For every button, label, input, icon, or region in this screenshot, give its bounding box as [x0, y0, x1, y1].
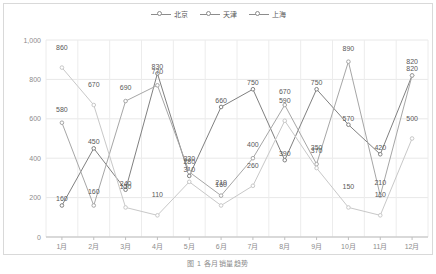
data-point[interactable]	[124, 99, 128, 103]
data-point[interactable]	[315, 166, 319, 170]
x-axis-tick-label: 9月	[311, 243, 322, 251]
data-point[interactable]	[378, 152, 382, 156]
y-axis-tick-label: 1,000	[23, 37, 41, 44]
data-point[interactable]	[251, 184, 255, 188]
data-point[interactable]	[187, 170, 191, 174]
data-point-label: 110	[152, 191, 163, 198]
data-point[interactable]	[347, 60, 351, 64]
data-point-label: 260	[247, 162, 259, 169]
data-point[interactable]	[410, 74, 414, 78]
data-point[interactable]	[187, 180, 191, 184]
data-point[interactable]	[251, 87, 255, 91]
data-point-label: 690	[120, 84, 132, 91]
data-point-label: 820	[406, 58, 418, 65]
data-point-label: 210	[374, 179, 386, 186]
data-point-label: 420	[374, 144, 386, 151]
figure-caption: 图 1 各月销量趋势	[0, 258, 436, 268]
line-chart-plot: 02004006008001,0001月2月3月4月5月6月7月8月9月10月1…	[4, 4, 434, 256]
data-point[interactable]	[92, 147, 96, 151]
y-axis-tick-label: 600	[29, 115, 41, 122]
data-point-label: 570	[343, 115, 355, 122]
data-point-label: 770	[152, 68, 164, 75]
x-axis-tick-label: 4月	[152, 243, 163, 251]
data-point-label: 820	[406, 65, 418, 72]
data-point[interactable]	[60, 204, 64, 208]
data-point[interactable]	[347, 206, 351, 210]
data-point[interactable]	[60, 121, 64, 125]
data-point-label: 590	[279, 97, 291, 104]
data-point[interactable]	[378, 214, 382, 218]
data-point-label: 670	[88, 81, 100, 88]
data-point[interactable]	[283, 119, 287, 123]
chart-frame: 北京 天津 上海 02004006008001,0001月2月3月4月5月6月7…	[3, 3, 433, 255]
data-point-label: 400	[247, 141, 259, 148]
y-axis-tick-label: 800	[29, 76, 41, 83]
data-point[interactable]	[187, 174, 191, 178]
x-axis-tick-label: 1月	[56, 243, 67, 251]
data-point-label: 500	[406, 115, 418, 122]
data-point[interactable]	[251, 156, 255, 160]
data-point[interactable]	[219, 194, 223, 198]
data-point[interactable]	[124, 206, 128, 210]
y-axis-tick-label: 200	[29, 194, 41, 201]
data-point-label: 670	[279, 88, 291, 95]
data-point[interactable]	[283, 158, 287, 162]
data-point-label: 580	[56, 106, 68, 113]
x-axis-tick-label: 8月	[279, 243, 290, 251]
data-point[interactable]	[60, 66, 64, 70]
data-point[interactable]	[219, 105, 223, 109]
data-point-label: 660	[215, 97, 227, 104]
data-point-label: 280	[183, 158, 195, 165]
data-point[interactable]	[92, 204, 96, 208]
data-point-label: 160	[215, 181, 227, 188]
data-point-label: 150	[343, 183, 355, 190]
data-point[interactable]	[347, 123, 351, 127]
data-point-label: 890	[343, 45, 355, 52]
data-point-label: 860	[56, 44, 68, 51]
x-axis-tick-label: 2月	[88, 243, 99, 251]
data-point[interactable]	[156, 84, 160, 88]
x-axis-tick-label: 3月	[120, 243, 131, 251]
data-point-label: 350	[311, 144, 323, 151]
data-point[interactable]	[315, 87, 319, 91]
x-axis-tick-label: 10月	[341, 243, 356, 251]
data-point-label: 160	[88, 188, 100, 195]
data-point-label: 150	[120, 183, 132, 190]
x-axis-tick-label: 5月	[184, 243, 195, 251]
data-point-label: 160	[56, 195, 68, 202]
data-point[interactable]	[92, 103, 96, 107]
data-point-label: 750	[247, 79, 259, 86]
data-point-label: 390	[279, 150, 291, 157]
x-axis-tick-label: 6月	[216, 243, 227, 251]
y-axis-tick-label: 0	[37, 234, 41, 241]
chart-screenshot: 北京 天津 上海 02004006008001,0001月2月3月4月5月6月7…	[0, 0, 436, 274]
data-point-label: 110	[375, 191, 386, 198]
data-point-label: 450	[88, 138, 100, 145]
x-axis-tick-label: 7月	[247, 243, 258, 251]
data-point-label: 750	[311, 79, 323, 86]
data-point[interactable]	[219, 204, 223, 208]
x-axis-tick-label: 12月	[405, 243, 420, 251]
x-axis-tick-label: 11月	[373, 243, 387, 251]
data-point[interactable]	[156, 214, 160, 218]
y-axis-tick-label: 400	[29, 155, 41, 162]
data-point[interactable]	[410, 137, 414, 141]
